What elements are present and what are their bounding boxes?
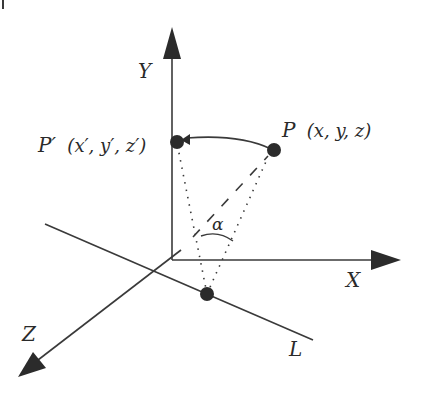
x-axis-arrowhead-icon (371, 250, 401, 270)
z-axis-arrowhead-icon (18, 352, 46, 377)
x-axis-label: X (344, 268, 361, 292)
z-axis-label: Z (21, 322, 37, 346)
angle-arc (201, 234, 233, 241)
point-p-prime-coords: (x′, y′, z′) (67, 135, 146, 156)
corner-mark (2, 0, 4, 9)
dotted-line-to-p-prime (178, 148, 207, 294)
y-axis-label: Y (138, 59, 153, 83)
line-l-label: L (288, 337, 302, 361)
point-p-name: P (281, 118, 296, 142)
rotation-arc (187, 137, 271, 149)
point-p (267, 143, 281, 157)
angle-alpha-label: α (212, 214, 224, 234)
line-l (45, 224, 313, 340)
point-p-label: P (x, y, z) (281, 118, 371, 142)
point-p-prime-label: P′ (x′, y′, z′) (37, 133, 146, 157)
point-foot-on-l (200, 287, 214, 301)
y-axis-arrowhead-icon (163, 27, 181, 59)
z-axis (18, 250, 181, 377)
x-axis (172, 250, 401, 270)
dashed-rotation-line (193, 156, 268, 237)
rotation-diagram: Y X Z L α P (x, y, z) P′ (x′, y′, z′) (0, 0, 425, 402)
point-p-coords: (x, y, z) (307, 120, 371, 141)
point-p-prime-name: P′ (37, 133, 56, 157)
point-p-prime (170, 135, 184, 149)
